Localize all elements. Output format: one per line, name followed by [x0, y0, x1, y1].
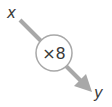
output-label: y — [94, 86, 103, 101]
function-machine-diagram: ×8 x y — [0, 0, 112, 107]
input-label: x — [7, 6, 16, 21]
operation-label: ×8 — [42, 44, 66, 63]
